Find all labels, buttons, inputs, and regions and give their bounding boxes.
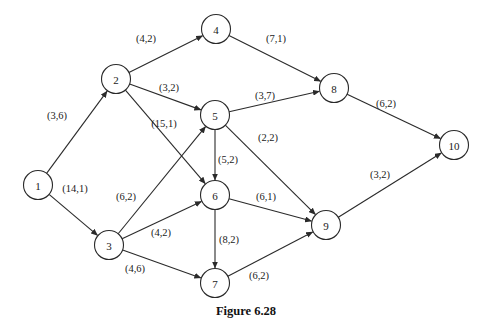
node-label-2: 2 [113, 74, 119, 86]
edge-label-3-6: (4,2) [151, 227, 172, 239]
node-label-8: 8 [331, 83, 337, 95]
edge-label-1-2: (3,6) [47, 110, 68, 122]
edge-3-5 [118, 127, 205, 234]
edge-2-6 [125, 90, 205, 184]
node-label-1: 1 [35, 180, 41, 192]
edge-1-2 [47, 91, 108, 173]
edge-label-7-9: (6,2) [249, 270, 270, 282]
node-label-6: 6 [212, 190, 218, 202]
edge-9-10 [338, 153, 441, 217]
edge-label-3-5: (6,2) [116, 191, 137, 203]
edge-label-3-7: (4,6) [125, 263, 146, 275]
edge-1-3 [49, 194, 97, 235]
node-8: 8 [320, 74, 349, 103]
edge-label-9-10: (3,2) [370, 169, 391, 181]
edge-label-8-10: (6,2) [376, 98, 397, 110]
edge-label-5-6: (5,2) [218, 154, 239, 166]
edge-label-2-6: (15,1) [151, 118, 177, 130]
edge-label-6-9: (6,1) [256, 191, 277, 203]
edge-label-2-5: (3,2) [159, 82, 180, 94]
node-label-4: 4 [213, 24, 219, 36]
node-2: 2 [102, 65, 131, 94]
node-5: 5 [201, 101, 230, 130]
edge-label-1-3: (14,1) [62, 183, 88, 195]
edge-7-9 [228, 232, 313, 276]
node-4: 4 [202, 15, 231, 44]
node-10: 10 [440, 131, 469, 160]
node-label-10: 10 [449, 140, 461, 152]
edge-label-2-4: (4,2) [136, 33, 157, 45]
node-7: 7 [201, 269, 230, 298]
node-3: 3 [95, 231, 124, 260]
edge-label-6-7: (8,2) [219, 234, 240, 246]
node-label-7: 7 [212, 278, 218, 290]
node-9: 9 [312, 211, 341, 240]
nodes-layer: 12345678910 [24, 15, 469, 298]
edge-6-9 [229, 199, 312, 221]
node-1: 1 [24, 171, 53, 200]
node-label-9: 9 [323, 220, 329, 232]
node-label-3: 3 [106, 240, 112, 252]
node-6: 6 [201, 181, 230, 210]
edge-label-5-9: (2,2) [258, 132, 279, 144]
node-label-5: 5 [212, 110, 218, 122]
edge-label-5-8: (3,7) [255, 90, 276, 102]
edge-label-4-8: (7,1) [266, 33, 287, 45]
figure-caption: Figure 6.28 [216, 304, 276, 318]
network-diagram: (3,6)(14,1)(4,2)(3,2)(15,1)(6,2)(4,2)(4,… [0, 0, 492, 323]
